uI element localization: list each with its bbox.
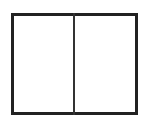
vertical-divider xyxy=(73,13,75,115)
